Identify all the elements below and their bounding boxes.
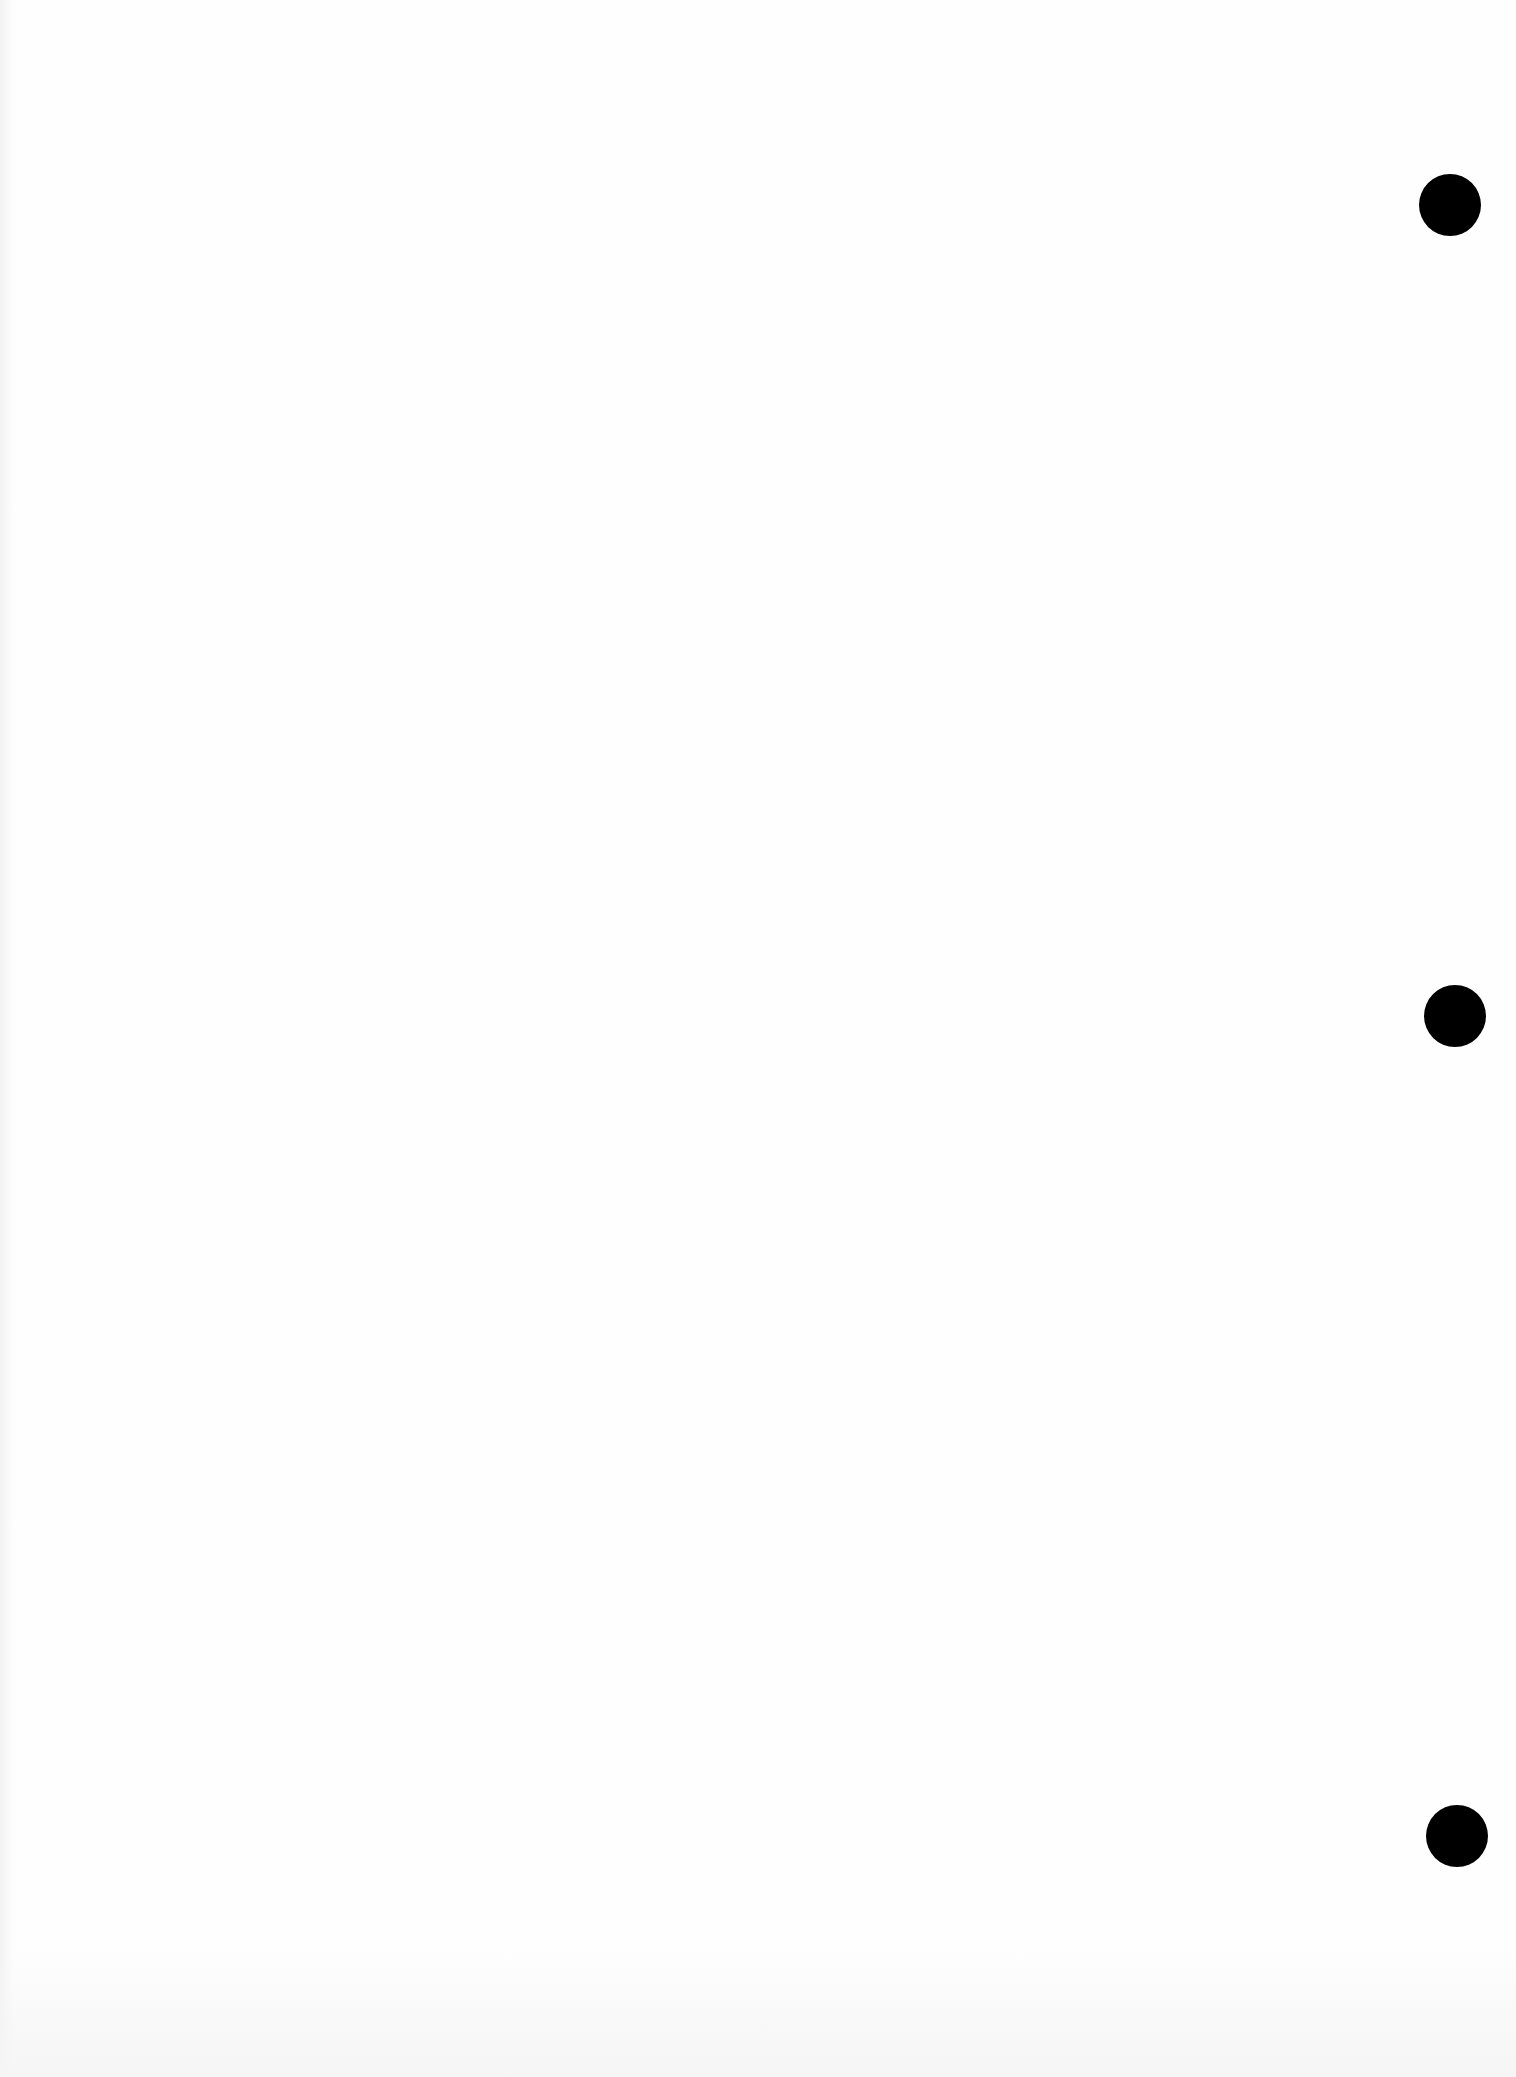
scan-edge-shadow bbox=[0, 0, 14, 2077]
blank-scanned-page bbox=[0, 0, 1516, 2077]
punch-hole-bottom bbox=[1426, 1805, 1488, 1867]
scan-bottom-grain bbox=[0, 1947, 1516, 2077]
punch-hole-top bbox=[1419, 174, 1481, 236]
punch-hole-middle bbox=[1424, 985, 1486, 1047]
